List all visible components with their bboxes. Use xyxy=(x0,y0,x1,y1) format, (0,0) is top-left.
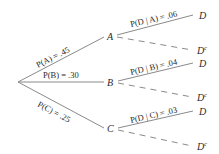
edge-c-dc xyxy=(118,130,192,146)
leaf-c-dc: Dc xyxy=(196,141,207,152)
edge-label-b: P(B) = .30 xyxy=(43,70,79,80)
leaf-a-d: D xyxy=(198,10,207,21)
edge-label-c: P(C) = .25 xyxy=(36,99,72,125)
leaf-a-dc-superscript: c xyxy=(204,45,207,51)
leaf-b-dc: Dc xyxy=(196,92,207,103)
edge-a-dc xyxy=(117,37,192,50)
edge-b-dc xyxy=(118,83,192,97)
edge-label-d-given-b: P(D | B) = .04 xyxy=(129,56,179,77)
leaf-a-dc: Dc xyxy=(196,45,207,56)
leaf-c-d: D xyxy=(198,106,207,117)
edge-label-d-given-c: P(D | C) = .03 xyxy=(129,104,178,125)
node-a: A xyxy=(106,31,114,42)
node-c: C xyxy=(107,123,114,134)
leaf-b-dc-superscript: c xyxy=(204,92,207,98)
leaf-b-d: D xyxy=(198,58,207,69)
probability-tree-diagram: P(A) = .45 P(B) = .30 P(C) = .25 A B C P… xyxy=(0,0,219,154)
node-b: B xyxy=(107,77,113,88)
leaf-c-dc-superscript: c xyxy=(204,141,207,147)
edge-root-c xyxy=(18,82,104,128)
